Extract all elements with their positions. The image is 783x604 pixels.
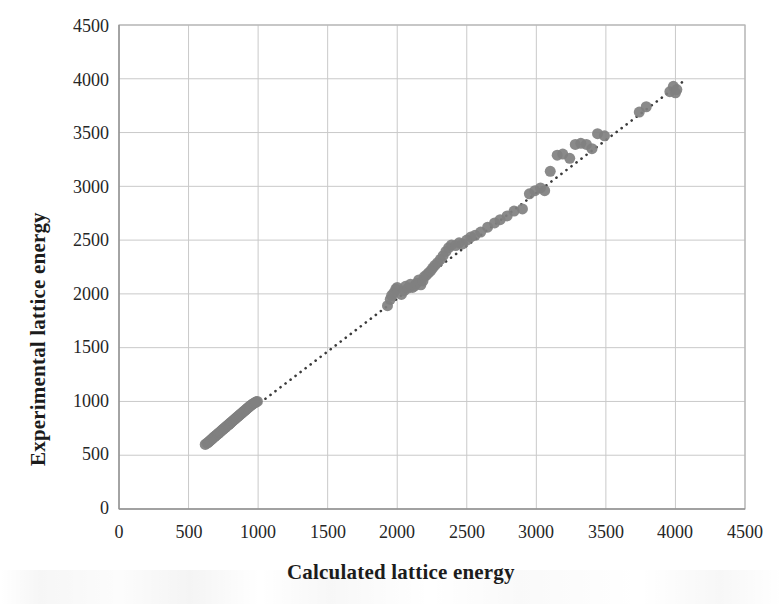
scatter-plot-figure: Experimental lattice energy Calculated l…	[0, 0, 783, 604]
plot-canvas	[0, 0, 783, 604]
data-points	[200, 81, 683, 450]
